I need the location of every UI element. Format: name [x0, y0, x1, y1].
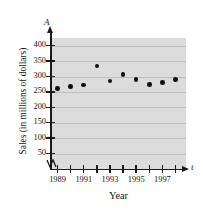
- y-axis-tick: [46, 153, 55, 154]
- data-point: [68, 84, 73, 89]
- x-axis-tick: [149, 165, 150, 173]
- y-axis-tick-label: 200: [20, 103, 46, 111]
- x-axis-tick: [57, 165, 58, 173]
- x-axis-title: Year: [51, 190, 186, 201]
- x-axis-tick: [122, 165, 123, 173]
- gridline: [51, 92, 186, 93]
- gridline: [51, 154, 186, 155]
- y-axis-tick-label-wrap: 50: [16, 149, 46, 158]
- data-point: [134, 77, 139, 82]
- gridline: [51, 107, 186, 108]
- y-axis-tick-label-wrap: 250: [16, 87, 46, 96]
- y-axis-tick-label: 250: [20, 87, 46, 95]
- y-axis-arrow-icon: [47, 26, 53, 33]
- y-axis-tick-label-wrap: 350: [16, 57, 46, 66]
- y-axis-tick-label: 350: [20, 57, 46, 65]
- data-point: [55, 86, 60, 91]
- plot-area: [51, 38, 186, 169]
- y-axis-tick: [46, 45, 55, 46]
- x-axis-tick: [70, 165, 71, 173]
- y-axis-tick-label: 100: [20, 134, 46, 142]
- y-axis-tick-label-wrap: 300: [16, 72, 46, 81]
- x-axis-tick: [162, 165, 163, 173]
- x-axis-tick: [96, 165, 97, 173]
- y-axis-tick-label-wrap: 100: [16, 134, 46, 143]
- data-point: [121, 72, 126, 77]
- gridline: [51, 138, 186, 139]
- y-axis-line: [50, 31, 52, 169]
- y-axis-tick-label-wrap: 150: [16, 118, 46, 127]
- data-point: [147, 82, 152, 87]
- scatter-chart-figure: A t Sales (in millions of dollars) Year …: [0, 0, 203, 216]
- gridline: [51, 123, 186, 124]
- gridline: [51, 46, 186, 47]
- y-axis-symbol-label: A: [44, 17, 50, 27]
- x-axis-symbol-label: t: [191, 162, 194, 172]
- gridline: [51, 61, 186, 62]
- y-axis-tick: [46, 91, 55, 92]
- x-axis-tick: [135, 165, 136, 173]
- data-point: [160, 80, 165, 85]
- x-axis-tick: [175, 165, 176, 173]
- y-axis-tick-label-wrap: 400: [16, 41, 46, 50]
- y-axis-tick-label: 300: [20, 72, 46, 80]
- y-axis-tick-label-wrap: 200: [16, 103, 46, 112]
- x-axis-tick: [83, 165, 84, 173]
- x-axis-tick-label: 1997: [147, 175, 177, 184]
- y-axis-tick: [46, 76, 55, 77]
- x-axis-tick: [109, 165, 110, 173]
- y-axis-tick-label: 50: [20, 149, 46, 157]
- y-axis-tick: [46, 60, 55, 61]
- y-axis-tick: [46, 137, 55, 138]
- data-point: [173, 77, 178, 82]
- y-axis-tick-label: 150: [20, 118, 46, 126]
- y-axis-tick-label: 400: [20, 41, 46, 49]
- y-axis-tick: [46, 107, 55, 108]
- y-axis-tick: [46, 122, 55, 123]
- x-axis-arrow-icon: [182, 166, 189, 172]
- gridline: [51, 77, 186, 78]
